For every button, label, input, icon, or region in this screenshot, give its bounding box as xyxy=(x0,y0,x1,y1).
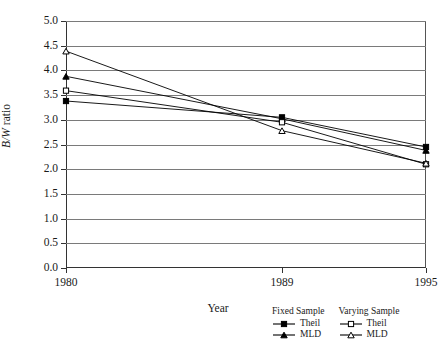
y-tick-label: 5.0 xyxy=(44,15,58,27)
series-varying-sample-theil xyxy=(63,88,428,167)
legend-item[interactable]: MLD xyxy=(272,330,325,340)
legend-marker-open-square xyxy=(339,319,363,329)
data-point-open-square xyxy=(348,321,353,326)
data-point-filled-square xyxy=(281,321,286,326)
legend-item-label: MLD xyxy=(300,330,321,340)
data-point-open-square xyxy=(279,120,284,125)
data-series-layer xyxy=(66,21,426,268)
y-tick-label: 3.0 xyxy=(44,114,58,126)
legend-group-title: Varying Sample xyxy=(339,306,400,316)
x-tick-mark xyxy=(426,268,427,273)
legend-group-title: Fixed Sample xyxy=(272,306,325,316)
y-axis-label: B/W ratio xyxy=(0,104,12,148)
data-point-open-triangle xyxy=(279,128,285,134)
y-tick-label: 0.5 xyxy=(44,238,58,250)
plot-area: 0.00.51.01.52.02.53.03.54.04.55.0 198019… xyxy=(66,21,426,268)
y-tick-label: 4.0 xyxy=(44,65,58,77)
y-tick-label: 4.5 xyxy=(44,40,58,52)
data-point-open-triangle xyxy=(63,48,69,54)
legend-item[interactable]: MLD xyxy=(339,330,400,340)
legend-group: Fixed SampleTheilMLD xyxy=(272,306,325,340)
x-axis-label: Year xyxy=(207,302,228,314)
x-tick-mark xyxy=(66,268,67,273)
series-line xyxy=(66,76,426,150)
series-line xyxy=(66,51,426,163)
chart-legend: Fixed SampleTheilMLDVarying SampleTheilM… xyxy=(272,306,399,340)
legend-item-label: Theil xyxy=(300,319,320,329)
series-fixed-sample-theil xyxy=(63,98,428,149)
legend-item[interactable]: Theil xyxy=(339,319,400,329)
series-fixed-sample-mld xyxy=(63,74,429,154)
y-tick-label: 1.0 xyxy=(44,213,58,225)
x-tick-mark xyxy=(282,268,283,273)
x-tick-label: 1989 xyxy=(271,277,294,289)
y-tick-label: 2.5 xyxy=(44,139,58,151)
x-tick-label: 1995 xyxy=(415,277,438,289)
series-line xyxy=(66,91,426,165)
legend-item[interactable]: Theil xyxy=(272,319,325,329)
series-varying-sample-mld xyxy=(63,48,429,166)
y-tick-label: 3.5 xyxy=(44,89,58,101)
legend-item-label: Theil xyxy=(367,319,387,329)
series-line xyxy=(66,101,426,147)
data-point-filled-square xyxy=(63,98,68,103)
y-tick-label: 1.5 xyxy=(44,188,58,200)
legend-group: Varying SampleTheilMLD xyxy=(339,306,400,340)
y-tick-label: 0.0 xyxy=(44,262,58,274)
legend-item-label: MLD xyxy=(367,330,388,340)
x-tick-label: 1980 xyxy=(55,277,78,289)
y-tick-label: 2.0 xyxy=(44,163,58,175)
legend-marker-filled-square xyxy=(272,319,296,329)
legend-marker-filled-triangle xyxy=(272,330,296,340)
data-point-open-square xyxy=(63,88,68,93)
legend-marker-open-triangle xyxy=(339,330,363,340)
